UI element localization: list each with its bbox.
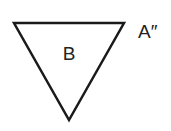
triangle-label: B	[63, 43, 76, 64]
vertex-label-a-double-prime: A″	[138, 21, 158, 42]
diagram-canvas: B A″	[0, 0, 171, 131]
inverted-triangle-b	[14, 23, 124, 120]
